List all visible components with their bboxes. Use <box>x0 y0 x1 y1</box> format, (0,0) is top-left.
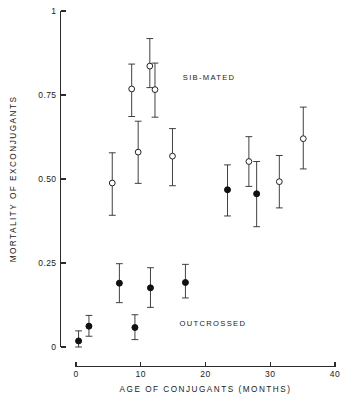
data-point[interactable] <box>132 315 139 340</box>
x-tick-label-2: 20 <box>200 369 210 379</box>
y-tick-label-4: 1 <box>51 6 56 16</box>
y-tick-label-3: 0.75 <box>38 90 56 100</box>
data-point[interactable] <box>147 268 154 308</box>
x-axis-title: AGE OF CONJUGANTS (MONTHS) <box>120 385 292 394</box>
figure-container: 00.250.500.751010203040 AGE OF CONJUGANT… <box>0 0 358 407</box>
marker-filled-circle[interactable] <box>254 191 260 197</box>
marker-open-circle[interactable] <box>129 86 135 92</box>
series-annotation-sib-mated: SIB-MATED <box>183 73 235 82</box>
series-annotation-outcrossed: OUTCROSSED <box>180 319 247 328</box>
marker-filled-circle[interactable] <box>147 285 153 291</box>
marker-filled-circle[interactable] <box>76 338 82 344</box>
data-point[interactable] <box>245 137 252 187</box>
data-points-layer <box>75 39 306 347</box>
data-point[interactable] <box>86 315 93 336</box>
data-point[interactable] <box>109 153 116 215</box>
marker-open-circle[interactable] <box>276 179 282 185</box>
data-point[interactable] <box>300 107 307 169</box>
marker-open-circle[interactable] <box>246 159 252 165</box>
data-point[interactable] <box>135 121 142 183</box>
marker-open-circle[interactable] <box>300 136 306 142</box>
marker-open-circle[interactable] <box>135 149 141 155</box>
data-point[interactable] <box>169 129 176 186</box>
x-tick-label-1: 10 <box>136 369 146 379</box>
marker-filled-circle[interactable] <box>182 279 188 285</box>
marker-filled-circle[interactable] <box>132 325 138 331</box>
y-tick-label-0: 0 <box>51 342 56 352</box>
marker-open-circle[interactable] <box>147 63 153 69</box>
x-tick-label-0: 0 <box>73 369 78 379</box>
data-point[interactable] <box>75 331 82 347</box>
data-point[interactable] <box>116 264 123 303</box>
marker-filled-circle[interactable] <box>86 323 92 329</box>
marker-open-circle[interactable] <box>109 180 115 186</box>
scatter-plot: 00.250.500.751010203040 AGE OF CONJUGANT… <box>0 0 358 407</box>
data-point[interactable] <box>253 162 260 227</box>
y-tick-label-2: 0.50 <box>38 174 56 184</box>
data-point[interactable] <box>224 165 231 216</box>
marker-open-circle[interactable] <box>152 87 158 93</box>
y-axis-title: MORTALITY OF EXCONJUGANTS <box>9 96 18 263</box>
data-point[interactable] <box>128 64 135 116</box>
y-tick-label-1: 0.25 <box>38 258 56 268</box>
marker-filled-circle[interactable] <box>116 280 122 286</box>
data-point[interactable] <box>182 264 189 298</box>
x-tick-label-4: 40 <box>330 369 340 379</box>
data-point[interactable] <box>276 155 283 207</box>
marker-open-circle[interactable] <box>170 153 176 159</box>
x-tick-label-3: 30 <box>265 369 275 379</box>
marker-filled-circle[interactable] <box>225 187 231 193</box>
series-sib-mated <box>109 39 307 216</box>
data-point[interactable] <box>152 63 159 117</box>
